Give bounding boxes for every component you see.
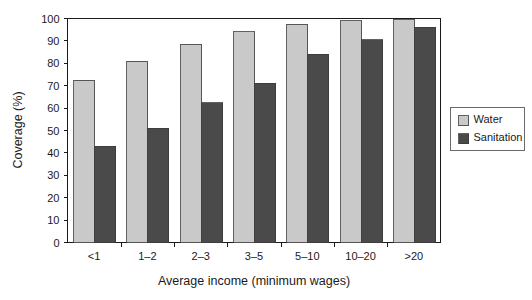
x-tick-label-0: <1 bbox=[88, 250, 101, 262]
x-tick-label-6: >20 bbox=[405, 250, 424, 262]
bar-sanitation-3 bbox=[255, 83, 276, 242]
y-tick-label: 20 bbox=[47, 192, 59, 204]
bars-layer bbox=[74, 20, 436, 243]
x-tick-label-4: 5–10 bbox=[295, 250, 319, 262]
x-axis-title: Average income (minimum wages) bbox=[158, 274, 350, 288]
y-tick-label: 30 bbox=[47, 169, 59, 181]
chart-container: Coverage (%) 0102030405060708090100 <11–… bbox=[0, 0, 532, 300]
y-tick-label: 10 bbox=[47, 214, 59, 226]
y-tick-label: 80 bbox=[47, 57, 59, 69]
y-axis: 0102030405060708090100 bbox=[41, 13, 67, 249]
y-tick-label: 60 bbox=[47, 102, 59, 114]
y-tick-label: 50 bbox=[47, 125, 59, 137]
y-tick-label: 90 bbox=[47, 35, 59, 47]
bar-sanitation-0 bbox=[95, 146, 116, 242]
legend-swatch-water bbox=[459, 116, 469, 126]
x-axis: <11–22–33–55–1010–20>20 bbox=[88, 243, 423, 262]
bar-sanitation-6 bbox=[415, 27, 436, 242]
bar-water-6 bbox=[394, 20, 415, 243]
bar-sanitation-2 bbox=[202, 103, 223, 243]
bar-sanitation-4 bbox=[308, 54, 329, 242]
chart-legend: WaterSanitation bbox=[451, 108, 525, 151]
y-tick-label: 40 bbox=[47, 147, 59, 159]
bar-water-1 bbox=[127, 61, 148, 242]
bar-sanitation-5 bbox=[362, 40, 383, 243]
bar-water-5 bbox=[341, 21, 362, 243]
bar-water-0 bbox=[74, 80, 95, 242]
legend-label-sanitation: Sanitation bbox=[474, 131, 523, 143]
legend-swatch-sanitation bbox=[459, 134, 469, 144]
bar-water-2 bbox=[181, 44, 202, 242]
y-axis-title: Coverage (%) bbox=[11, 91, 25, 168]
bar-water-4 bbox=[287, 24, 308, 242]
y-tick-label: 100 bbox=[41, 13, 59, 25]
bar-water-3 bbox=[234, 32, 255, 243]
y-tick-label: 70 bbox=[47, 80, 59, 92]
x-tick-label-5: 10–20 bbox=[345, 250, 376, 262]
y-tick-label: 0 bbox=[53, 237, 59, 249]
x-tick-label-3: 3–5 bbox=[245, 250, 263, 262]
x-tick-label-1: 1–2 bbox=[138, 250, 156, 262]
x-tick-label-2: 2–3 bbox=[192, 250, 210, 262]
legend-label-water: Water bbox=[474, 113, 503, 125]
coverage-bar-chart: Coverage (%) 0102030405060708090100 <11–… bbox=[0, 0, 532, 300]
bar-sanitation-1 bbox=[148, 128, 169, 242]
